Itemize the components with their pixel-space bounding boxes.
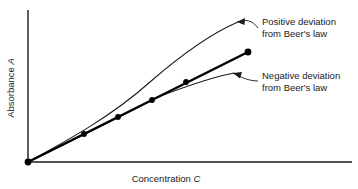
data-point-marker <box>25 159 32 166</box>
x-axis-label-symbol: C <box>193 173 200 184</box>
negative-deviation-curve <box>28 73 234 162</box>
series-beers-law-linear <box>25 49 252 166</box>
series-negative-deviation <box>28 73 234 162</box>
series-positive-deviation <box>28 22 238 162</box>
positive-deviation-label-line1: Positive deviation <box>262 16 336 27</box>
data-point-marker <box>115 114 121 120</box>
negative-deviation-leader <box>233 72 258 81</box>
arrowhead-icon <box>237 18 245 25</box>
beers-law-deviation-chart: Positive deviation from Beer's law Negat… <box>0 0 358 189</box>
negative-deviation-label-line2: from Beer's law <box>262 82 327 93</box>
y-axis-label-text: Absorbance <box>5 65 16 118</box>
x-axis-label: Concentration C <box>132 173 201 184</box>
positive-deviation-leader <box>237 18 258 28</box>
positive-deviation-label-line2: from Beer's law <box>262 28 327 39</box>
data-point-marker <box>81 131 87 137</box>
y-axis-label: Absorbance A <box>5 58 16 118</box>
negative-deviation-label-line1: Negative deviation <box>262 70 340 81</box>
x-axis-label-text: Concentration <box>132 173 194 184</box>
y-axis-label-symbol: A <box>5 58 16 65</box>
arrowhead-icon <box>233 72 242 79</box>
data-point-marker <box>149 97 155 103</box>
beers-law-line <box>28 52 248 162</box>
data-point-marker <box>183 79 189 85</box>
data-point-marker <box>245 49 252 56</box>
positive-deviation-curve <box>28 22 238 162</box>
